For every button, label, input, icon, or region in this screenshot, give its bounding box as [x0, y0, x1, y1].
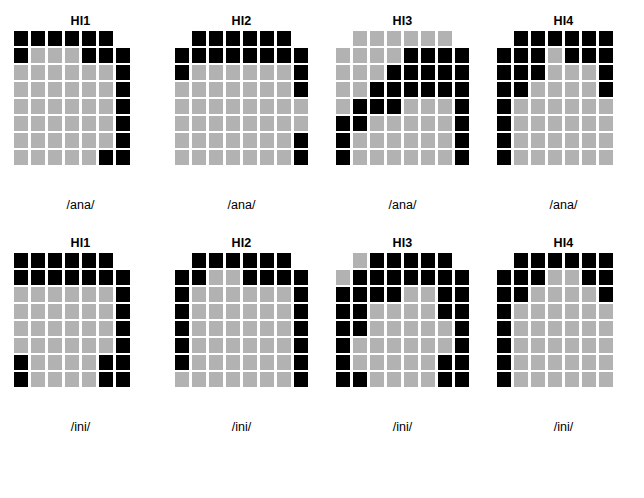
matrix-cell-fill: [353, 338, 367, 352]
matrix-cell: [276, 354, 293, 371]
matrix-cell-empty: [615, 98, 632, 115]
matrix-cell: [13, 303, 30, 320]
matrix-cell: [30, 64, 47, 81]
matrix-cell-empty: [132, 81, 149, 98]
matrix-cell-fill: [438, 133, 452, 147]
matrix-cell: [208, 149, 225, 166]
matrix-cell-fill: [353, 270, 367, 284]
matrix-cell-fill: [548, 253, 562, 267]
matrix-cell-fill: [243, 372, 257, 386]
matrix-cell-fill: [65, 253, 79, 267]
matrix-cell-fill: [133, 82, 147, 96]
matrix-cell: [276, 286, 293, 303]
matrix-cell: [81, 286, 98, 303]
matrix-cell-fill: [133, 304, 147, 318]
matrix-grid: [496, 252, 632, 388]
matrix-cell-fill: [599, 355, 613, 369]
matrix-cell: [98, 149, 115, 166]
matrix-cell: [191, 30, 208, 47]
matrix-cell: [386, 98, 403, 115]
matrix-cell-fill: [548, 338, 562, 352]
matrix-cell-fill: [243, 48, 257, 62]
matrix-cell: [547, 98, 564, 115]
matrix-cell-fill: [82, 133, 96, 147]
matrix-cell-empty: [615, 132, 632, 149]
matrix-cell-fill: [404, 48, 418, 62]
matrix-cell: [47, 337, 64, 354]
matrix-cell-fill: [99, 65, 113, 79]
matrix-cell-fill: [582, 133, 596, 147]
matrix-cell-fill: [336, 321, 350, 335]
matrix-cell-fill: [65, 372, 79, 386]
matrix-cell: [47, 354, 64, 371]
matrix-cell-fill: [548, 270, 562, 284]
matrix-cell-fill: [65, 65, 79, 79]
matrix-cell-fill: [99, 82, 113, 96]
matrix-cell: [513, 64, 530, 81]
panel-hi1-ini: HI1 /ini/: [0, 236, 161, 434]
matrix-cell: [386, 64, 403, 81]
matrix-cell: [81, 115, 98, 132]
matrix-cell: [369, 371, 386, 388]
matrix-cell-fill: [514, 31, 528, 45]
matrix-cell-fill: [404, 99, 418, 113]
matrix-cell-fill: [209, 116, 223, 130]
grid-wrapper: [496, 30, 632, 180]
matrix-cell-fill: [31, 372, 45, 386]
matrix-cell-fill: [175, 65, 189, 79]
matrix-cell: [598, 132, 615, 149]
matrix-cell: [64, 371, 81, 388]
matrix-cell: [598, 320, 615, 337]
matrix-cell: [242, 30, 259, 47]
matrix-cell: [293, 320, 310, 337]
matrix-cell: [335, 64, 352, 81]
matrix-cell: [259, 371, 276, 388]
matrix-cell: [98, 252, 115, 269]
matrix-cell-fill: [387, 150, 401, 164]
grid-wrapper: [174, 30, 310, 180]
matrix-cell: [81, 303, 98, 320]
matrix-cell-fill: [226, 133, 240, 147]
matrix-cell: [242, 98, 259, 115]
matrix-cell: [47, 115, 64, 132]
matrix-cell: [174, 354, 191, 371]
matrix-cell: [547, 320, 564, 337]
matrix-cell-fill: [65, 321, 79, 335]
matrix-cell: [598, 30, 615, 47]
matrix-cell: [437, 337, 454, 354]
matrix-cell: [115, 269, 132, 286]
matrix-cell-fill: [99, 48, 113, 62]
matrix-cell-fill: [438, 150, 452, 164]
matrix-cell-fill: [116, 321, 130, 335]
matrix-cell-fill: [175, 321, 189, 335]
matrix-cell-fill: [421, 287, 435, 301]
matrix-cell: [547, 132, 564, 149]
matrix-cell-fill: [31, 304, 45, 318]
matrix-cell: [386, 354, 403, 371]
matrix-cell-fill: [336, 65, 350, 79]
matrix-cell: [403, 269, 420, 286]
matrix-cell-fill: [175, 48, 189, 62]
matrix-cell-fill: [387, 31, 401, 45]
matrix-cell: [208, 81, 225, 98]
matrix-cell-fill: [455, 48, 469, 62]
matrix-cell: [513, 47, 530, 64]
matrix-cell-fill: [192, 321, 206, 335]
matrix-cell: [47, 64, 64, 81]
matrix-cell: [115, 64, 132, 81]
matrix-cell-fill: [226, 355, 240, 369]
matrix-cell-fill: [192, 99, 206, 113]
grid-wrapper: [13, 252, 149, 402]
matrix-cell-fill: [209, 48, 223, 62]
matrix-cell-fill: [99, 372, 113, 386]
matrix-cell-fill: [31, 82, 45, 96]
matrix-cell: [386, 132, 403, 149]
matrix-cell: [47, 252, 64, 269]
matrix-cell: [259, 320, 276, 337]
matrix-cell-fill: [616, 133, 630, 147]
matrix-cell-fill: [243, 355, 257, 369]
matrix-cell-fill: [421, 82, 435, 96]
matrix-cell: [530, 98, 547, 115]
matrix-cell: [98, 47, 115, 64]
matrix-cell: [335, 149, 352, 166]
